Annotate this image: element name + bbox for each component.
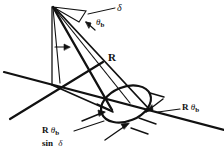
label-cross-range-denominator: sin δ [42,139,62,148]
cross-range-leader [74,121,104,131]
label-theta-b-subscript: b [100,21,104,29]
label-sin-delta-symbol: δ [58,138,62,148]
dim-right-tick-a [150,93,164,97]
label-arc-length-subscript: b [195,106,199,114]
delta-leader-line [88,8,115,14]
diagram-canvas [0,0,224,167]
label-arc-length-R: R [182,102,189,112]
beam-marker-arrow-head [64,44,70,50]
theta-b-arrow-head [86,22,91,28]
label-sin-text: sin [42,138,53,148]
label-cross-range-numerator: R θb [42,126,59,137]
label-cross-range-R: R [42,125,49,135]
label-delta: δ [117,3,122,13]
dim-lower-tick-b [131,128,148,134]
label-theta-b: θb [96,18,104,29]
label-range-R: R [108,52,116,63]
beam-geometry-figure: δ θb R R θb R θb sin δ [0,0,224,167]
dim-right-leader [158,109,180,112]
label-cross-range-subscript: b [55,129,59,137]
label-arc-length: R θb [182,103,199,114]
dim-right-tick-b [139,118,156,124]
